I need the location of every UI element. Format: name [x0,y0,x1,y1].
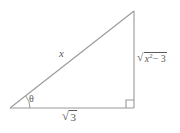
angle-label-theta: θ [29,94,34,104]
right-triangle-figure: x θ √ 3 √ x2− 3 [0,0,180,133]
radical-sign-icon: √ [62,110,69,122]
radicand-remainder: − 3 [153,53,166,64]
base-radical: √ 3 [62,110,77,123]
hypotenuse-label: x [59,48,64,59]
base-radicand: 3 [69,110,77,123]
vertical-leg-label: √ x2− 3 [137,52,167,64]
vertical-radicand: x2− 3 [144,52,167,64]
triangle-drawing [0,0,180,133]
vertical-radical: √ x2− 3 [137,52,167,64]
base-label: √ 3 [62,110,77,123]
radical-sign-icon: √ [137,52,143,63]
right-angle-marker-icon [126,100,134,108]
